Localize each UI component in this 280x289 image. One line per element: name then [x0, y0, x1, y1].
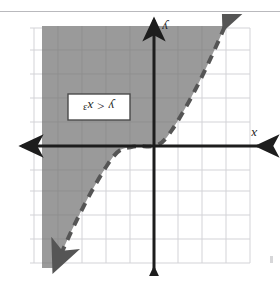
inequality-label-box: y < x³ — [68, 94, 130, 120]
inequality-graph-figure: x y y < x³ — [0, 14, 280, 276]
page-horizontal-rule — [0, 11, 280, 12]
stray-print-mark — [270, 256, 273, 263]
x-axis-label: x — [251, 127, 258, 142]
inequality-label-text: y < x³ — [83, 99, 117, 114]
figure-screenshot: x y y < x³ — [0, 0, 280, 289]
